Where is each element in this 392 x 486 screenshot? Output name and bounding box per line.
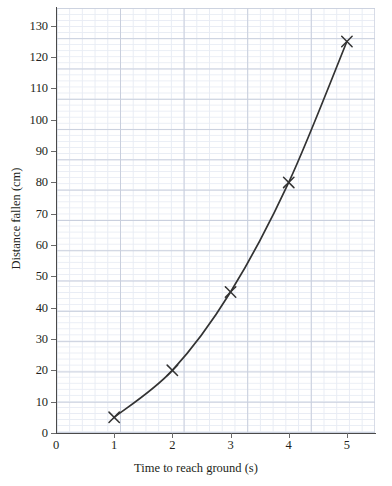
y-axis-tick <box>51 120 56 121</box>
y-axis-tick-label: 0 <box>6 427 48 440</box>
y-axis-tick <box>51 57 56 58</box>
y-axis-tick-label: 20 <box>6 364 48 377</box>
x-axis-tick-label: 4 <box>269 439 309 452</box>
y-axis-tick <box>51 151 56 152</box>
x-axis-tick-label: 0 <box>36 439 76 452</box>
graph-figure: 0102030405060708090100110120130012345 Ti… <box>0 0 392 486</box>
y-axis-tick <box>51 88 56 89</box>
y-axis-tick <box>51 339 56 340</box>
x-axis-line <box>56 433 376 434</box>
x-axis-title: Time to reach ground (s) <box>0 462 392 475</box>
x-axis-tick-label: 3 <box>211 439 251 452</box>
y-axis-title: Distance fallen (cm) <box>10 119 23 319</box>
x-axis-tick-label: 2 <box>152 439 192 452</box>
y-axis-tick-label: 110 <box>6 82 48 95</box>
y-axis-tick <box>51 276 56 277</box>
y-axis-tick <box>51 26 56 27</box>
y-axis-tick-label: 120 <box>6 51 48 64</box>
y-axis-line <box>56 7 57 434</box>
x-axis-tick-label: 1 <box>94 439 134 452</box>
y-axis-tick-label: 130 <box>6 20 48 33</box>
y-axis-tick-label: 10 <box>6 396 48 409</box>
y-axis-tick <box>51 245 56 246</box>
plot-area-gridlines <box>57 8 375 434</box>
y-axis-tick <box>51 402 56 403</box>
y-axis-tick <box>51 308 56 309</box>
y-axis-tick-label: 30 <box>6 333 48 346</box>
y-axis-tick <box>51 182 56 183</box>
x-axis-tick-label: 5 <box>327 439 367 452</box>
y-axis-tick <box>51 214 56 215</box>
y-axis-tick <box>51 370 56 371</box>
y-axis-tick <box>51 433 56 434</box>
